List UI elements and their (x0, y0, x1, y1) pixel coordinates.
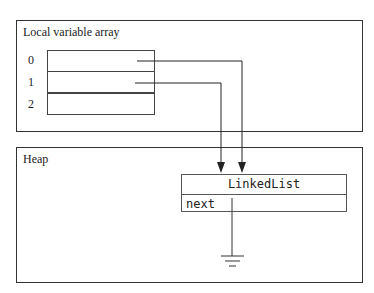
index-2-label: 2 (28, 97, 34, 112)
linkedlist-object: LinkedList next (181, 174, 347, 212)
local-variable-array-title: Local variable array (23, 25, 120, 40)
array-slot-1 (47, 71, 155, 93)
heap-panel: Heap (16, 147, 363, 283)
index-0-label: 0 (28, 53, 34, 68)
heap-title: Heap (23, 152, 48, 167)
array-slot-0 (47, 50, 155, 72)
array-slot-2 (47, 93, 155, 115)
index-1-label: 1 (28, 75, 34, 90)
next-field: next (182, 195, 346, 213)
linkedlist-class-name: LinkedList (182, 175, 346, 195)
